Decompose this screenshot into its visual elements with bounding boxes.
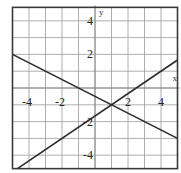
x-tick-label: -2: [55, 95, 65, 109]
y-axis-label: y: [99, 7, 104, 17]
x-tick-label: -4: [22, 95, 32, 109]
y-tick-label: 4: [87, 14, 93, 28]
line-graph: -4 -2 2 4 4 2 -2 -4 x y: [0, 0, 181, 173]
y-tick-label: -4: [83, 148, 93, 162]
x-tick-label: 2: [125, 95, 131, 109]
line-increasing: [17, 60, 177, 169]
y-tick-label: 2: [87, 47, 93, 61]
x-axis-label: x: [173, 73, 178, 83]
x-tick-label: 4: [158, 95, 164, 109]
y-tick-label: -2: [83, 115, 93, 129]
axes: [13, 5, 180, 168]
